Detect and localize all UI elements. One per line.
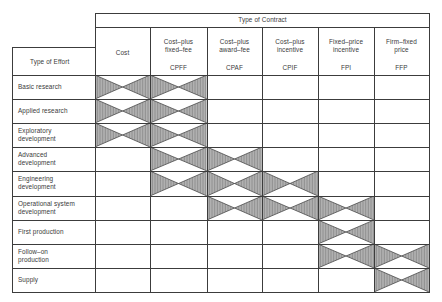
row-border — [12, 268, 430, 269]
column-label-line1: Cost–plus — [150, 38, 207, 46]
row-label: Engineering — [18, 175, 94, 183]
column-label-line1: Cost–plus — [262, 38, 318, 46]
row-border — [12, 123, 430, 124]
applicable-cell-hatch — [262, 171, 318, 196]
row-label-line2: development — [18, 208, 94, 216]
header-top-border — [95, 13, 430, 14]
row-label: First production — [18, 228, 94, 236]
applicable-cell-hatch — [95, 123, 150, 147]
column-label-line2: incentive — [318, 46, 374, 54]
applicable-cell-hatch — [207, 171, 262, 196]
row-border — [12, 292, 430, 293]
row-label: Follow–on — [18, 248, 94, 256]
row-border — [12, 147, 430, 148]
effort-header-top-border — [12, 47, 96, 48]
column-label-line1: Fixed–price — [318, 38, 374, 46]
applicable-cell-hatch — [150, 171, 207, 196]
table-right-border — [429, 13, 430, 293]
applicable-cell-hatch — [374, 244, 429, 268]
column-abbreviation: CPIF — [262, 64, 318, 72]
applicable-cell-hatch — [95, 99, 150, 123]
applicable-cell-hatch — [150, 147, 207, 171]
row-label-line2: development — [18, 183, 94, 191]
row-border — [12, 99, 430, 100]
column-abbreviation: CPAF — [207, 64, 262, 72]
row-border — [12, 196, 430, 197]
applicable-cell-hatch — [95, 75, 150, 99]
column-label-line1: Cost–plus — [207, 38, 262, 46]
row-label: Basic research — [18, 83, 94, 91]
column-label-line2: incentive — [262, 46, 318, 54]
applicable-cell-hatch — [318, 220, 374, 244]
column-label-line2: fixed–fee — [150, 46, 207, 54]
row-border — [12, 171, 430, 172]
column-border — [150, 27, 151, 293]
row-border — [12, 75, 430, 76]
column-abbreviation: FFP — [374, 64, 429, 72]
column-label-line1: Firm–fixed — [374, 38, 429, 46]
applicable-cell-hatch — [374, 268, 429, 292]
row-label: Operational system — [18, 200, 94, 208]
row-label: Supply — [18, 276, 94, 284]
column-abbreviation: CPFF — [150, 64, 207, 72]
column-border — [318, 27, 319, 293]
applicable-cell-hatch — [150, 123, 207, 147]
row-label-line2: development — [18, 135, 94, 143]
applicable-cell-hatch — [318, 196, 374, 220]
type-of-effort-header: Type of Effort — [30, 58, 95, 66]
column-label-line2: price — [374, 46, 429, 54]
column-label-line1: Cost — [95, 49, 150, 57]
column-border — [374, 27, 375, 293]
applicable-cell-hatch — [150, 75, 207, 99]
row-border — [12, 244, 430, 245]
applicable-cell-hatch — [318, 244, 374, 268]
table-left-border — [12, 47, 13, 293]
row-label-line2: development — [18, 159, 94, 167]
column-label-line2: award–fee — [207, 46, 262, 54]
applicable-cell-hatch — [262, 196, 318, 220]
row-border — [12, 220, 430, 221]
row-label: Applied research — [18, 107, 94, 115]
type-of-contract-title: Type of Contract — [95, 16, 430, 24]
row-label: Advanced — [18, 151, 94, 159]
row-label-line2: production — [18, 256, 94, 264]
contract-type-matrix: Type of Contract Type of Effort CostCost… — [0, 0, 442, 302]
applicable-cell-hatch — [207, 147, 262, 171]
label-column-border — [95, 13, 96, 293]
column-border — [262, 27, 263, 293]
row-label: Exploratory — [18, 127, 94, 135]
applicable-cell-hatch — [207, 196, 262, 220]
column-abbreviation: FPI — [318, 64, 374, 72]
column-border — [207, 27, 208, 293]
applicable-cell-hatch — [150, 99, 207, 123]
